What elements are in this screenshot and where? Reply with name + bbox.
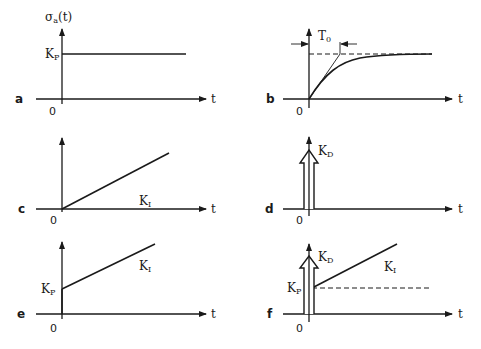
panel-a: σa(t) KP a 0 t	[15, 10, 216, 118]
t-label: t	[211, 202, 216, 216]
t-label: t	[211, 92, 216, 106]
panel-b: T0 b 0 t	[266, 29, 463, 118]
t0-label: T0	[318, 29, 331, 44]
kd-label: KD	[318, 144, 333, 159]
origin-label: 0	[296, 322, 303, 335]
panel-c: KI c 0 t	[18, 138, 216, 227]
controller-step-responses-figure: σa(t) KP a 0 t T0 b 0 t KI c 0 t KD d 0	[0, 0, 481, 349]
origin-label: 0	[50, 214, 57, 227]
kp-label: KP	[45, 47, 60, 62]
y-axis-label: σa(t)	[45, 10, 72, 25]
exponential-curve	[309, 54, 432, 99]
panel-f: KD KP KI f 0 t	[267, 244, 463, 335]
panel-e: KP KI e 0 t	[17, 242, 216, 335]
panel-label: d	[265, 202, 274, 216]
kd-label: KD	[318, 250, 333, 265]
ramp-line	[62, 153, 169, 209]
ki-label: KI	[139, 194, 151, 209]
t-label: t	[458, 307, 463, 321]
kp-label: KP	[41, 282, 56, 297]
t-label: t	[211, 307, 216, 321]
t-label: t	[458, 202, 463, 216]
panel-label: e	[17, 307, 25, 321]
panel-label: c	[18, 202, 25, 216]
origin-label: 0	[49, 105, 56, 118]
ki-label: KI	[139, 259, 151, 274]
origin-label: 0	[50, 322, 57, 335]
panel-d: KD d 0 t	[265, 137, 463, 227]
tangent-line	[309, 54, 340, 99]
kp-label: KP	[287, 281, 302, 296]
panel-label: f	[267, 307, 273, 321]
t-label: t	[458, 92, 463, 106]
ki-label: KI	[384, 260, 396, 275]
panel-label: a	[15, 92, 23, 106]
panel-label: b	[266, 92, 275, 106]
origin-label: 0	[296, 105, 303, 118]
origin-label: 0	[296, 214, 303, 227]
